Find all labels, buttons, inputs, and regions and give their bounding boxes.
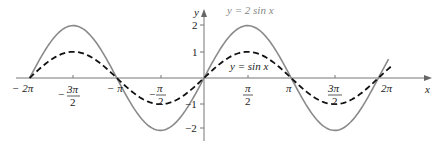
y-axis-arrow-icon xyxy=(201,9,207,17)
xtick-neg-pi2-minus: − xyxy=(149,88,155,100)
ytick-2: 2 xyxy=(192,19,198,31)
sine-plot: − 2π − 3π 2 − π − π 2 π 2 π 3π 2 2π 2 1 … xyxy=(0,0,446,147)
xtick-pi2-den: 2 xyxy=(245,95,251,107)
ytick-neg1: −1 xyxy=(185,98,197,110)
y-axis-label: y xyxy=(193,6,199,18)
xtick-neg-pi: − π xyxy=(107,82,123,94)
xtick-neg-pi2-den: 2 xyxy=(158,95,164,107)
axes xyxy=(16,9,432,141)
y-tick-labels: 2 1 −1 −2 xyxy=(185,19,198,134)
xtick-pi2-num: π xyxy=(245,82,251,94)
x-axis-arrow-icon xyxy=(424,75,432,81)
xtick-neg-2pi: − 2π xyxy=(12,82,34,94)
xtick-neg-3pi2-den: 2 xyxy=(70,96,76,108)
xtick-neg-3pi2-num: 3π xyxy=(66,83,79,95)
xtick-3pi2-num: 3π xyxy=(327,82,340,94)
label-2sin-x: y = 2 sin x xyxy=(226,4,274,16)
y-ticks xyxy=(200,25,204,128)
label-sin-x: y = sin x xyxy=(229,60,268,72)
ytick-1: 1 xyxy=(192,46,198,58)
x-axis-label: x xyxy=(424,83,430,95)
xtick-pi: π xyxy=(286,82,292,94)
ytick-neg2: −2 xyxy=(185,122,197,134)
xtick-2pi: 2π xyxy=(381,82,393,94)
xtick-3pi2-den: 2 xyxy=(332,95,338,107)
xtick-neg-3pi2-minus: − xyxy=(58,88,64,100)
xtick-neg-pi2-num: π xyxy=(157,82,163,94)
